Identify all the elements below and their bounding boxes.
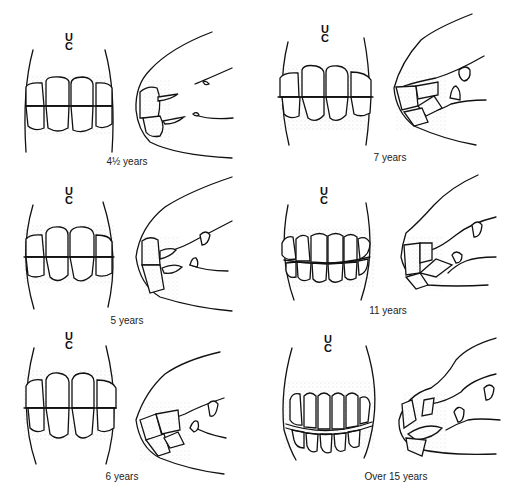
age-label: 7 years	[374, 152, 407, 163]
side-view-teeth	[256, 0, 511, 170]
panel-7-years: UC 7 years	[256, 0, 511, 170]
age-label: Over 15 years	[365, 471, 428, 482]
age-label: 5 years	[111, 315, 144, 326]
panel-5-years: UC 5 years	[0, 165, 256, 335]
panel-11-years: UC 11 years	[256, 165, 511, 335]
panel-over-15-years: UC Over 15 years	[256, 330, 511, 497]
age-label: 6 years	[106, 471, 139, 482]
side-view-teeth	[0, 0, 256, 170]
panel-4-5-years: UC 4½ years	[0, 0, 256, 170]
side-view-teeth	[0, 165, 256, 335]
panel-6-years: UC 6 years	[0, 330, 256, 497]
age-label: 11 years	[369, 305, 407, 316]
